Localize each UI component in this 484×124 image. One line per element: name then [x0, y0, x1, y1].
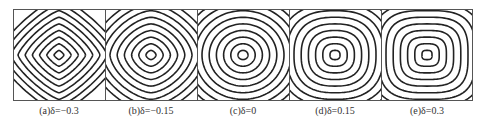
contour-line: [47, 44, 71, 66]
contour-line: [323, 44, 347, 66]
contour-line: [238, 50, 248, 59]
contour-line: [110, 17, 192, 92]
panel-divider: [197, 9, 198, 101]
contour-line: [301, 24, 369, 86]
contour-line: [40, 37, 79, 73]
contour-line: [54, 50, 64, 59]
contour-line: [231, 44, 255, 66]
contour-line: [209, 24, 277, 86]
contour-line: [224, 37, 263, 73]
contour-plot-d: [289, 9, 381, 101]
contour-plot-a: [13, 9, 105, 101]
contour-line: [132, 37, 171, 73]
contour-line: [289, 9, 381, 101]
panel-c: [197, 9, 289, 101]
panel-e: [381, 9, 473, 101]
contour-line: [381, 9, 473, 101]
contour-plot-b: [105, 9, 197, 101]
contour-line: [381, 9, 473, 101]
contour-line: [202, 17, 284, 92]
panel-d: [289, 9, 381, 101]
caption-d: (d)δ=0.15: [289, 105, 381, 116]
panel-b: [105, 9, 197, 101]
panel-divider: [381, 9, 382, 101]
contour-plot-e: [381, 9, 473, 101]
panel-divider: [105, 9, 106, 101]
caption-a: (a)δ=−0.3: [13, 105, 105, 116]
contour-plot-c: [197, 9, 289, 101]
contour-line: [294, 17, 376, 92]
contour-line: [289, 9, 381, 101]
contour-line: [330, 50, 340, 59]
contour-line: [18, 17, 100, 92]
contour-line: [117, 24, 185, 86]
caption-c: (c)δ=0: [197, 105, 289, 116]
contour-line: [13, 9, 105, 101]
panel-divider: [289, 9, 290, 101]
contour-figure: (a)δ=−0.3 (b)δ=−0.15 (c)δ=0 (d)δ=0.15 (e…: [0, 0, 484, 124]
contour-line: [408, 37, 447, 73]
contour-line: [415, 44, 439, 66]
contour-line: [393, 24, 461, 86]
contour-line: [139, 44, 163, 66]
contour-line: [422, 50, 432, 59]
caption-e: (e)δ=0.3: [381, 105, 473, 116]
contour-line: [105, 9, 197, 101]
contour-line: [316, 37, 355, 73]
contour-line: [105, 9, 197, 101]
caption-b: (b)δ=−0.15: [105, 105, 197, 116]
panel-a: [13, 9, 105, 101]
contour-line: [146, 50, 156, 59]
contour-line: [13, 9, 105, 101]
contour-line: [386, 17, 468, 92]
